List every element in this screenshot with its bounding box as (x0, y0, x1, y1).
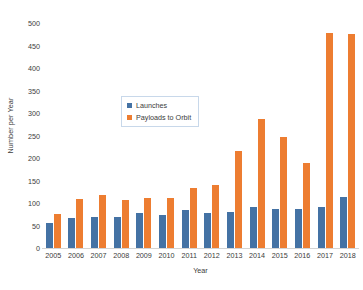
y-axis-tick-label: 50 (32, 221, 40, 230)
bar-payloads (167, 198, 174, 248)
x-axis-tick-label: 2006 (65, 251, 88, 260)
x-axis-tick-label: 2010 (155, 251, 178, 260)
legend-item: Launches (127, 101, 191, 110)
bar-group (87, 23, 110, 248)
bar-group (155, 23, 178, 248)
bar-group (223, 23, 246, 248)
bar-launches (136, 213, 143, 248)
bar-group (291, 23, 314, 248)
x-axis-tick-label: 2015 (268, 251, 291, 260)
y-axis-tick-label: 300 (28, 109, 40, 118)
x-axis-ticks: 2005200620072008200920102011201220132014… (42, 251, 359, 260)
y-axis-tick-label: 400 (28, 64, 40, 73)
bar-launches (204, 213, 211, 248)
bar-launches (68, 218, 75, 248)
chart-legend: LaunchesPayloads to Orbit (121, 96, 199, 127)
x-axis-tick-label: 2008 (110, 251, 133, 260)
bar-group (336, 23, 359, 248)
bar-payloads (122, 200, 129, 248)
bar-chart: Number per Year 050100150200250300350400… (0, 0, 363, 290)
x-axis-tick-label: 2018 (336, 251, 359, 260)
bar-launches (318, 207, 325, 248)
bar-launches (227, 212, 234, 248)
bar-payloads (303, 163, 310, 248)
bar-launches (91, 217, 98, 248)
legend-item: Payloads to Orbit (127, 113, 191, 122)
bar-payloads (144, 198, 151, 248)
bar-group (65, 23, 88, 248)
y-axis-tick-label: 350 (28, 86, 40, 95)
bar-payloads (326, 33, 333, 248)
x-axis-tick-label: 2014 (246, 251, 269, 260)
bar-payloads (76, 199, 83, 248)
bar-payloads (235, 151, 242, 248)
bar-group (246, 23, 269, 248)
bar-payloads (54, 214, 61, 248)
y-axis-tick-label: 100 (28, 199, 40, 208)
bar-payloads (258, 119, 265, 248)
y-axis-tick-label: 500 (28, 19, 40, 28)
x-axis-tick-label: 2016 (291, 251, 314, 260)
x-axis-tick-label: 2012 (200, 251, 223, 260)
bar-group (178, 23, 201, 248)
y-axis-tick-label: 0 (36, 244, 40, 253)
legend-item-label: Payloads to Orbit (136, 113, 191, 122)
y-axis-title-label: Number per Year (7, 97, 16, 153)
x-axis-tick-label: 2011 (178, 251, 201, 260)
y-axis-ticks: 050100150200250300350400450500 (18, 23, 40, 248)
bar-payloads (99, 195, 106, 248)
x-axis-tick-label: 2013 (223, 251, 246, 260)
bar-group (42, 23, 65, 248)
bar-launches (250, 207, 257, 248)
bar-launches (46, 223, 53, 248)
x-axis-tick-label: 2007 (87, 251, 110, 260)
bar-group (200, 23, 223, 248)
x-axis-tick-label: 2009 (133, 251, 156, 260)
x-axis-tick-label: 2005 (42, 251, 65, 260)
plot-area (42, 23, 359, 249)
y-axis-tick-label: 250 (28, 131, 40, 140)
bar-launches (114, 217, 121, 248)
bar-launches (182, 210, 189, 248)
x-axis-tick-label: 2017 (314, 251, 337, 260)
bar-launches (295, 209, 302, 248)
bar-group (133, 23, 156, 248)
legend-item-label: Launches (136, 101, 167, 110)
y-axis-tick-label: 200 (28, 154, 40, 163)
bar-launches (159, 215, 166, 248)
y-axis-tick-label: 450 (28, 41, 40, 50)
bar-payloads (190, 188, 197, 248)
bar-payloads (280, 137, 287, 248)
x-axis-title: Year (42, 266, 359, 275)
bar-payloads (348, 34, 355, 248)
bar-group (314, 23, 337, 248)
bar-group (268, 23, 291, 248)
bar-group (110, 23, 133, 248)
legend-swatch-icon (127, 103, 132, 108)
bar-launches (340, 197, 347, 248)
bar-payloads (212, 185, 219, 248)
bar-launches (272, 209, 279, 248)
y-axis-tick-label: 150 (28, 176, 40, 185)
legend-swatch-icon (127, 115, 132, 120)
bars-layer (42, 23, 359, 248)
